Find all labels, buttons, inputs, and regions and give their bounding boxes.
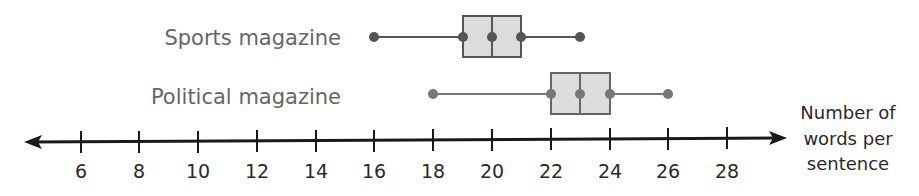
axis-label: Number of words per sentence bbox=[800, 102, 896, 174]
tick-label: 10 bbox=[186, 160, 210, 182]
series-label-political: Political magazine bbox=[151, 85, 341, 109]
tick-label: 20 bbox=[480, 160, 504, 182]
box-plot-chart: Sports magazine Political magazine bbox=[0, 0, 919, 196]
tick-label: 24 bbox=[598, 160, 622, 182]
series-label-sports: Sports magazine bbox=[164, 26, 341, 50]
tick-label: 12 bbox=[245, 160, 269, 182]
svg-text:Number of: Number of bbox=[800, 102, 896, 123]
tick-label: 26 bbox=[656, 160, 680, 182]
tick-label: 18 bbox=[421, 160, 445, 182]
svg-text:sentence: sentence bbox=[807, 153, 889, 174]
tick-label: 14 bbox=[304, 160, 328, 182]
sports-box-plot bbox=[369, 16, 585, 57]
tick-label: 22 bbox=[539, 160, 563, 182]
tick-label: 28 bbox=[715, 160, 739, 182]
political-box-plot bbox=[428, 73, 673, 114]
tick-labels: 6 8 10 12 14 16 18 20 22 24 26 28 bbox=[75, 160, 739, 182]
tick-label: 6 bbox=[75, 160, 87, 182]
tick-label: 16 bbox=[362, 160, 386, 182]
number-line-axis bbox=[24, 127, 787, 153]
tick-label: 8 bbox=[133, 160, 145, 182]
svg-text:words per: words per bbox=[803, 128, 893, 149]
